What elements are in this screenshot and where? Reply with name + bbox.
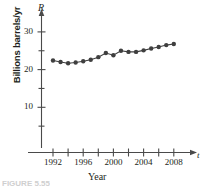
x-axis-arrowhead: [190, 150, 197, 155]
x-axis-variable-name: t: [197, 150, 200, 160]
y-tick-label-30: 30: [11, 26, 33, 36]
data-point-1999: [104, 51, 108, 55]
y-tick-label-10: 10: [11, 101, 33, 111]
x-tick-label-2008: 2008: [158, 157, 190, 167]
x-tick-label-2004: 2004: [128, 157, 160, 167]
figure-chart: Billions barrels/yr Year R t 102030 1992…: [0, 0, 208, 189]
x-tick-label-1992: 1992: [37, 157, 69, 167]
data-point-1992: [51, 58, 55, 62]
data-point-1998: [96, 55, 100, 59]
axes-group: [28, 9, 197, 155]
y-axis-variable-name: R: [38, 2, 44, 13]
data-point-2005: [149, 46, 153, 50]
data-point-2006: [157, 45, 161, 49]
figure-caption: FIGURE 5.55: [2, 179, 50, 188]
data-point-2004: [141, 48, 145, 52]
data-point-2003: [134, 50, 138, 54]
data-point-2002: [126, 50, 130, 54]
data-point-1996: [81, 59, 85, 63]
x-axis-label: Year: [88, 171, 106, 182]
x-tick-label-1996: 1996: [67, 157, 99, 167]
x-tick-label-2000: 2000: [97, 157, 129, 167]
data-point-2008: [172, 42, 176, 46]
data-point-1993: [58, 60, 62, 64]
data-point-1994: [66, 61, 70, 65]
data-point-markers: [51, 42, 176, 66]
data-point-2007: [164, 43, 168, 47]
data-point-1997: [89, 58, 93, 62]
y-tick-label-20: 20: [11, 64, 33, 74]
y-axis-label: Billions barrels/yr: [11, 0, 25, 99]
data-point-2000: [111, 53, 115, 57]
data-point-1995: [73, 60, 77, 64]
data-point-2001: [119, 49, 123, 53]
